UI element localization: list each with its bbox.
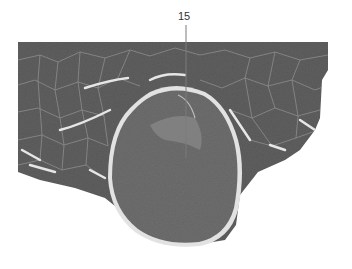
label-15: 15 bbox=[178, 11, 190, 22]
dense-oval-structure bbox=[108, 86, 242, 247]
micrograph bbox=[0, 0, 352, 269]
histology-figure: 15 bbox=[0, 0, 352, 269]
